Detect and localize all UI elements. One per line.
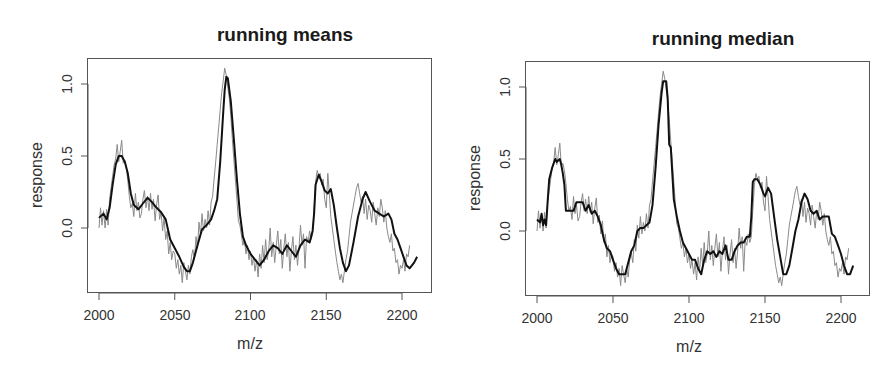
x-tick-label: 2100 [673, 310, 704, 326]
x-tick-label: 2100 [234, 307, 265, 323]
y-axis-label: response [466, 145, 483, 211]
raw-spectrum-line [537, 71, 849, 286]
x-axis [537, 296, 841, 303]
panel-running-means: running means 2000 2050 2100 2150 2200 0… [0, 0, 448, 370]
chart-title: running median [652, 28, 795, 49]
y-axis [519, 87, 526, 231]
x-tick-label: 2200 [825, 310, 856, 326]
y-tick-label: 1.0 [59, 74, 75, 94]
x-tick-label: 2050 [597, 310, 628, 326]
y-axis [81, 84, 88, 228]
panel-running-median: running median 2000 2050 2100 2150 2200 … [438, 0, 886, 370]
x-axis [99, 293, 402, 300]
x-tick-label: 2150 [310, 307, 341, 323]
y-axis-label: response [28, 142, 45, 208]
running-median-line [537, 81, 853, 274]
y-tick-label: 0.0 [497, 221, 513, 241]
y-tick-label: 1.0 [497, 77, 513, 97]
x-tick-label: 2050 [159, 307, 190, 323]
chart-title: running means [217, 24, 353, 45]
y-tick-label: 0.5 [59, 146, 75, 166]
x-tick-label: 2000 [83, 307, 114, 323]
x-tick-label: 2200 [386, 307, 417, 323]
chart-running-median: running median 2000 2050 2100 2150 2200 … [438, 0, 896, 370]
x-tick-label: 2150 [749, 310, 780, 326]
x-tick-label: 2000 [521, 310, 552, 326]
x-axis-label: m/z [237, 335, 263, 352]
y-tick-label: 0.5 [497, 149, 513, 169]
running-mean-line [99, 77, 417, 271]
raw-spectrum-line [99, 68, 410, 283]
x-axis-label: m/z [676, 338, 702, 355]
y-tick-label: 0.0 [59, 218, 75, 238]
chart-running-means: running means 2000 2050 2100 2150 2200 0… [0, 0, 448, 370]
